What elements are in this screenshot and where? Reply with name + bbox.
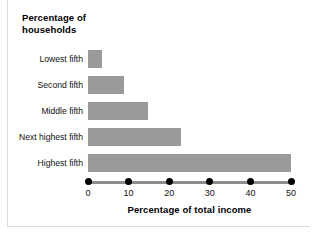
bar [88,50,102,68]
bar-row: Next highest fifth [0,124,317,150]
x-axis-line [88,181,291,184]
x-axis-tick-marker [206,178,213,185]
bar [88,154,291,172]
bar-category-label: Middle fifth [0,106,83,116]
bar-category-label: Highest fifth [0,158,83,168]
x-axis-tick-label: 50 [271,188,311,199]
bar-category-label: Lowest fifth [0,54,83,64]
x-axis-tick-label: 40 [230,188,270,199]
bar [88,128,181,146]
x-axis-tick-label: 30 [190,188,230,199]
bar-category-label: Next highest fifth [0,132,83,142]
bar-row: Second fifth [0,72,317,98]
x-axis-tick-marker [125,178,132,185]
bar-row: Middle fifth [0,98,317,124]
bar-row: Highest fifth [0,150,317,176]
bar [88,102,148,120]
bar-category-label: Second fifth [0,80,83,90]
x-axis-tick-label: 10 [109,188,149,199]
plot-area: Percentage of total income Lowest fifthS… [0,0,317,234]
bar-chart-figure: Percentage of households Percentage of t… [0,0,317,234]
x-axis-title: Percentage of total income [88,204,291,215]
bar-row: Lowest fifth [0,46,317,72]
x-axis-tick-label: 20 [149,188,189,199]
x-axis-tick-marker [166,178,173,185]
x-axis-tick-label: 0 [68,188,108,199]
x-axis-tick-marker [288,178,295,185]
x-axis-tick-marker [85,178,92,185]
bar [88,76,124,94]
x-axis-tick-marker [247,178,254,185]
